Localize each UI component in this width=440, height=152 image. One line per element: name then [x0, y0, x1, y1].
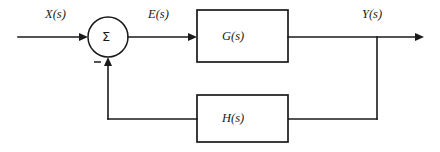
output-signal-label: Y(s)	[362, 8, 382, 21]
diagram-canvas	[0, 0, 440, 152]
output-arrowhead-icon	[415, 33, 424, 41]
input-signal-label: X(s)	[45, 8, 66, 21]
input-arrowhead-icon	[79, 33, 88, 41]
error-signal-label: E(s)	[148, 8, 169, 21]
summation-symbol: Σ	[102, 30, 110, 43]
block-diagram: X(s) Σ E(s) G(s) Y(s) H(s)	[0, 0, 440, 152]
forward-block-label: G(s)	[222, 30, 244, 43]
feedback-block-label: H(s)	[222, 112, 244, 125]
error-arrowhead-icon	[188, 33, 197, 41]
feedback-arrowhead-icon	[104, 57, 112, 66]
